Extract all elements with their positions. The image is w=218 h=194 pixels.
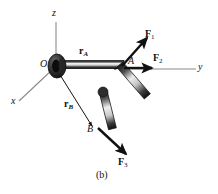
axis-label-x: x (11, 96, 15, 106)
force-label-F2-subscript: 2 (159, 57, 163, 65)
support-hub-O (48, 54, 66, 78)
axis-label-z: z (52, 8, 56, 18)
point-label-B: B (87, 124, 93, 134)
axis-x (19, 70, 52, 101)
force-label-F2: F2 (153, 53, 163, 63)
vector-label-rB: rB (64, 99, 73, 109)
axis-label-y: y (198, 62, 202, 72)
force-label-F1-subscript: 1 (151, 33, 155, 41)
force-label-F3: F3 (118, 157, 128, 167)
figure-canvas (0, 0, 218, 194)
force-label-F1: F1 (145, 29, 155, 39)
force-F1-arrow (122, 38, 147, 66)
point-label-A: A (128, 56, 134, 66)
vector-label-rA: rA (79, 46, 88, 56)
figure-caption: (b) (96, 170, 108, 180)
vector-rB (57, 70, 92, 126)
force-label-F3-subscript: 3 (124, 161, 128, 169)
vector-label-rA-subscript: A (83, 50, 88, 58)
rod-elbow-joint (98, 87, 108, 97)
point-label-O: O (40, 59, 47, 69)
force-F3-arrow (98, 128, 126, 154)
mechanics-figure: z y x O A B rA rB F1 F2 F3 (b) (0, 0, 218, 194)
vector-label-rB-subscript: B (68, 103, 73, 111)
